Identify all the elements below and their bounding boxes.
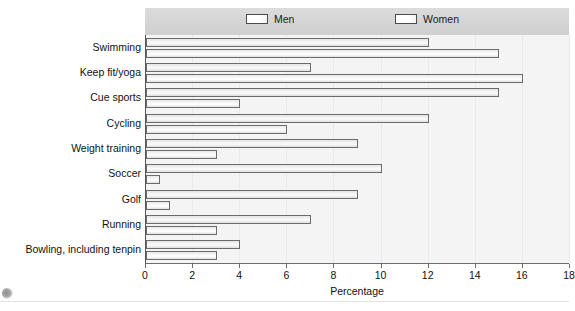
bar-women-swimming xyxy=(146,49,499,58)
legend-entry-women: Women xyxy=(395,14,459,25)
bar-women-keep-fit-yoga xyxy=(146,74,523,83)
x-tick-mark xyxy=(333,264,334,268)
x-tick-mark xyxy=(192,264,193,268)
x-tick-mark xyxy=(569,264,570,268)
x-tick-label: 18 xyxy=(563,269,575,281)
bar-men-swimming xyxy=(146,38,429,47)
x-tick-label: 16 xyxy=(516,269,528,281)
page-artifact-smudge xyxy=(2,288,13,299)
bar-men-weight-training xyxy=(146,139,358,148)
y-axis-label-soccer: Soccer xyxy=(0,167,145,179)
bar-men-golf xyxy=(146,190,358,199)
bar-women-cycling xyxy=(146,125,287,134)
y-axis-category-labels: SwimmingKeep fit/yogaCue sportsCyclingWe… xyxy=(0,35,141,263)
gridline xyxy=(381,35,382,263)
bar-men-cycling xyxy=(146,114,429,123)
x-tick-label: 6 xyxy=(283,269,289,281)
x-tick-label: 8 xyxy=(331,269,337,281)
x-tick-mark xyxy=(522,264,523,268)
bar-men-keep-fit-yoga xyxy=(146,63,311,72)
y-axis-line xyxy=(145,35,146,264)
y-axis-label-bowling-including-tenpin: Bowling, including tenpin xyxy=(0,243,145,255)
bar-men-soccer xyxy=(146,164,382,173)
x-tick-label: 12 xyxy=(422,269,434,281)
bar-men-cue-sports xyxy=(146,88,499,97)
gridline xyxy=(569,35,570,263)
y-axis-label-cycling: Cycling xyxy=(0,117,145,129)
x-tick-label: 4 xyxy=(236,269,242,281)
x-tick-mark xyxy=(239,264,240,268)
bar-women-golf xyxy=(146,201,170,210)
y-axis-label-golf: Golf xyxy=(0,193,145,205)
x-tick-label: 14 xyxy=(469,269,481,281)
bar-men-bowling-including-tenpin xyxy=(146,240,240,249)
y-axis-label-weight-training: Weight training xyxy=(0,142,145,154)
x-tick-mark xyxy=(381,264,382,268)
legend-swatch-women xyxy=(395,14,417,24)
x-axis-ticks: 024681012141618 xyxy=(145,264,569,284)
x-tick-mark xyxy=(428,264,429,268)
bar-women-cue-sports xyxy=(146,99,240,108)
x-tick-label: 0 xyxy=(142,269,148,281)
gridline xyxy=(428,35,429,263)
x-tick-mark xyxy=(286,264,287,268)
y-axis-label-keep-fit-yoga: Keep fit/yoga xyxy=(0,66,145,78)
x-axis-title: Percentage xyxy=(145,285,569,297)
chart-legend: Men Women xyxy=(145,8,569,35)
bar-women-soccer xyxy=(146,175,160,184)
y-axis-label-cue-sports: Cue sports xyxy=(0,91,145,103)
x-tick-label: 2 xyxy=(189,269,195,281)
x-tick-label: 10 xyxy=(375,269,387,281)
y-axis-label-running: Running xyxy=(0,218,145,230)
legend-entry-men: Men xyxy=(246,14,294,25)
bar-men-running xyxy=(146,215,311,224)
plot-area xyxy=(145,35,569,263)
legend-swatch-men xyxy=(246,14,268,24)
legend-label-women: Women xyxy=(423,14,459,25)
gridline xyxy=(333,35,334,263)
bar-women-running xyxy=(146,226,217,235)
bar-women-weight-training xyxy=(146,150,217,159)
bar-women-bowling-including-tenpin xyxy=(146,251,217,260)
page-bottom-rule xyxy=(0,301,569,302)
x-tick-mark xyxy=(475,264,476,268)
gridline xyxy=(475,35,476,263)
gridline xyxy=(522,35,523,263)
x-tick-mark xyxy=(145,264,146,268)
legend-label-men: Men xyxy=(274,14,294,25)
y-axis-label-swimming: Swimming xyxy=(0,41,145,53)
